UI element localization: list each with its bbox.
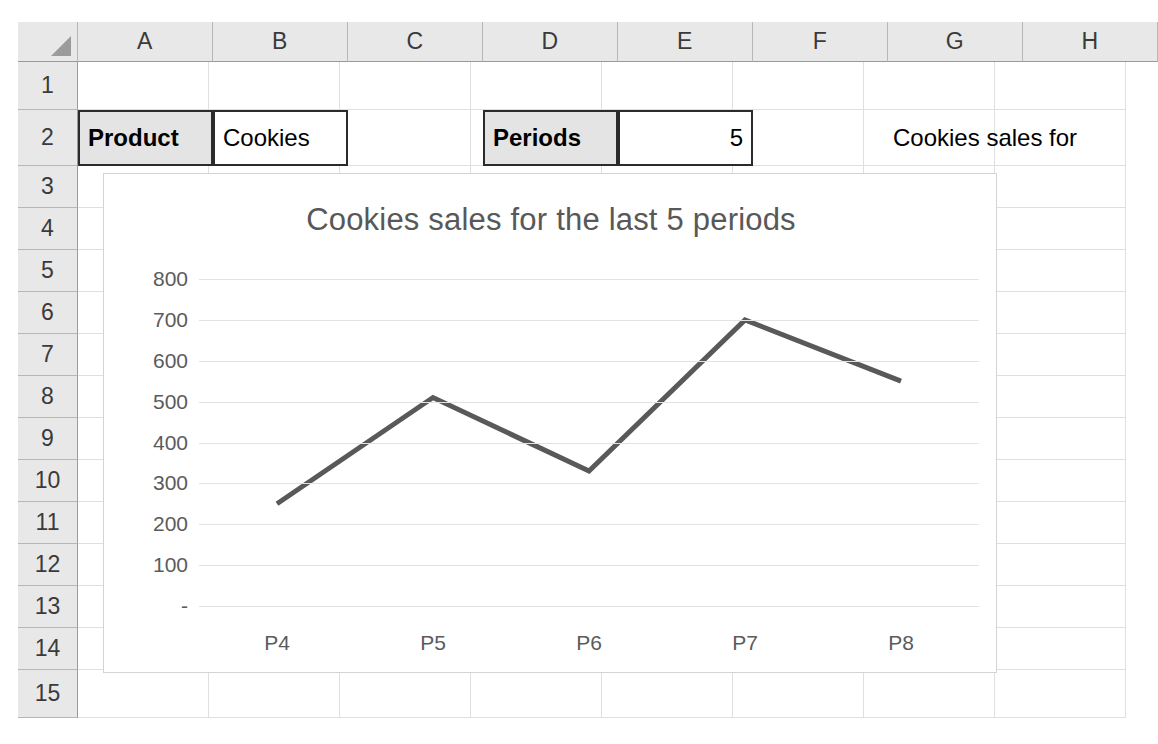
row-header-15[interactable]: 15 [18,670,78,718]
x-axis-tick-label: P5 [420,631,446,655]
row-header-6[interactable]: 6 [18,292,78,334]
cell-e2-text: 5 [730,124,743,152]
x-axis-tick-label: P8 [888,631,914,655]
cell-c2[interactable] [340,110,471,166]
row-header-5[interactable]: 5 [18,250,78,292]
column-header-g[interactable]: G [888,22,1023,62]
cell-h1[interactable] [995,62,1126,110]
row-header-column: 123456789101112131415 [18,62,78,718]
x-axis-tick-label: P4 [264,631,290,655]
row-header-1[interactable]: 1 [18,62,78,110]
row-header-12[interactable]: 12 [18,544,78,586]
row-header-2[interactable]: 2 [18,110,78,166]
sheet-row [78,670,1126,718]
row-header-9[interactable]: 9 [18,418,78,460]
cell-d15[interactable] [471,670,602,718]
gridline [199,402,979,403]
cell-h14[interactable] [995,628,1126,670]
gridline [199,524,979,525]
cell-e15[interactable] [602,670,733,718]
chart-object[interactable]: Cookies sales for the last 5 periods 800… [103,173,997,673]
gridline [199,320,979,321]
gridline [199,565,979,566]
column-header-d[interactable]: D [483,22,618,62]
cell-h6[interactable] [995,292,1126,334]
column-header-c[interactable]: C [348,22,483,62]
gridline [199,606,979,607]
gridline [199,443,979,444]
cell-a15[interactable] [78,670,209,718]
x-axis-tick-label: P6 [576,631,602,655]
cell-b2-text: Cookies [223,124,310,152]
cell-a2-text: Product [88,124,179,152]
cell-g1[interactable] [864,62,995,110]
cell-a1[interactable] [78,62,209,110]
cell-g15[interactable] [864,670,995,718]
cell-g2-text: Cookies sales for [893,124,1077,152]
cell-a2-product-label[interactable]: Product [78,110,213,166]
cell-d2-periods-label[interactable]: Periods [483,110,618,166]
chart-line-series [104,174,998,674]
select-all-triangle-icon [51,36,71,56]
cell-g2-overflow-text[interactable]: Cookies sales for [893,110,1077,166]
column-header-e[interactable]: E [618,22,753,62]
row-header-13[interactable]: 13 [18,586,78,628]
select-all-button[interactable] [18,22,78,62]
cell-h12[interactable] [995,544,1126,586]
cell-c15[interactable] [340,670,471,718]
cell-d1[interactable] [471,62,602,110]
cell-h3[interactable] [995,166,1126,208]
row-header-4[interactable]: 4 [18,208,78,250]
cell-f15[interactable] [733,670,864,718]
cell-h8[interactable] [995,376,1126,418]
cell-b1[interactable] [209,62,340,110]
gridline [199,483,979,484]
column-header-row: ABCDEFGH [18,22,1158,62]
gridline [199,361,979,362]
cell-h5[interactable] [995,250,1126,292]
row-header-8[interactable]: 8 [18,376,78,418]
sheet-row [78,62,1126,110]
cell-e1[interactable] [602,62,733,110]
column-header-a[interactable]: A [78,22,213,62]
column-header-h[interactable]: H [1023,22,1158,62]
gridline [199,279,979,280]
cell-e2-periods-value[interactable]: 5 [618,110,753,166]
column-header-b[interactable]: B [213,22,348,62]
cell-h4[interactable] [995,208,1126,250]
cell-h11[interactable] [995,502,1126,544]
cell-d2-text: Periods [493,124,581,152]
row-header-3[interactable]: 3 [18,166,78,208]
cell-c1[interactable] [340,62,471,110]
row-header-10[interactable]: 10 [18,460,78,502]
cell-h9[interactable] [995,418,1126,460]
row-header-11[interactable]: 11 [18,502,78,544]
cell-h15[interactable] [995,670,1126,718]
chart-plot-area: 800700600500400300200100- P4P5P6P7P8 [104,174,998,674]
series-line-cookies-sales [277,320,901,504]
row-header-14[interactable]: 14 [18,628,78,670]
x-axis-tick-label: P7 [732,631,758,655]
cell-h13[interactable] [995,586,1126,628]
cell-h7[interactable] [995,334,1126,376]
column-header-f[interactable]: F [753,22,888,62]
cell-f1[interactable] [733,62,864,110]
cell-b15[interactable] [209,670,340,718]
cell-b2-product-value[interactable]: Cookies [213,110,348,166]
row-header-7[interactable]: 7 [18,334,78,376]
cell-h10[interactable] [995,460,1126,502]
